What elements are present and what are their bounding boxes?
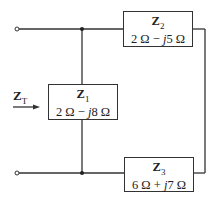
- z3-name: Z3: [125, 158, 193, 179]
- junction-top-icon: [80, 27, 84, 31]
- z3-sign: +: [154, 178, 161, 192]
- z3-subscript: 3: [161, 167, 166, 177]
- z2-symbol: Z: [152, 14, 160, 28]
- z3-value: 6 Ω + j7 Ω: [125, 179, 193, 192]
- z2-imag: 5 Ω: [166, 32, 185, 46]
- z2-name: Z2: [124, 12, 192, 33]
- arrow-icon: [33, 105, 40, 110]
- zt-subscript: T: [22, 96, 28, 106]
- impedance-z1: Z1 2 Ω − j8 Ω: [48, 84, 118, 120]
- z1-symbol: Z: [77, 87, 85, 101]
- impedance-z2: Z2 2 Ω − j5 Ω: [123, 11, 193, 47]
- z3-real: 6 Ω: [132, 178, 151, 192]
- input-impedance-label: ZT: [13, 88, 27, 106]
- z3-symbol: Z: [153, 160, 161, 174]
- z1-imag: 8 Ω: [91, 105, 110, 119]
- z1-subscript: 1: [85, 94, 90, 104]
- z1-sign: −: [78, 105, 85, 119]
- z2-subscript: 2: [160, 21, 165, 31]
- terminal-top-icon: [15, 27, 19, 31]
- z1-real: 2 Ω: [56, 105, 75, 119]
- zt-symbol: Z: [13, 88, 22, 103]
- z1-name: Z1: [49, 85, 117, 106]
- z2-sign: −: [153, 32, 160, 46]
- z1-value: 2 Ω − j8 Ω: [49, 106, 117, 119]
- junction-bottom-icon: [80, 171, 84, 175]
- z3-imag: 7 Ω: [167, 178, 186, 192]
- z2-value: 2 Ω − j5 Ω: [124, 33, 192, 46]
- impedance-z3: Z3 6 Ω + j7 Ω: [124, 157, 194, 192]
- z2-real: 2 Ω: [131, 32, 150, 46]
- terminal-bottom-icon: [15, 171, 19, 175]
